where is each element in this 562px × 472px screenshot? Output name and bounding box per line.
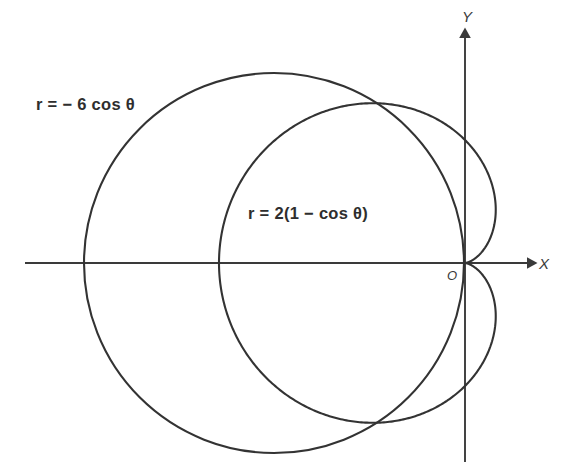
y-axis-label: Y [462,8,473,25]
axes-group: X Y O [25,8,550,462]
label-cardioid-equation: r = 2(1 − cos θ) [248,204,368,222]
label-circle-equation: r = − 6 cos θ [36,95,135,113]
x-axis-label: X [538,255,550,272]
polar-curves-figure: X Y O r = − 6 cos θ r = 2(1 − cos θ) [0,0,562,472]
y-axis-arrowhead [459,28,471,39]
origin-label: O [447,268,457,283]
x-axis-arrowhead [527,257,538,269]
